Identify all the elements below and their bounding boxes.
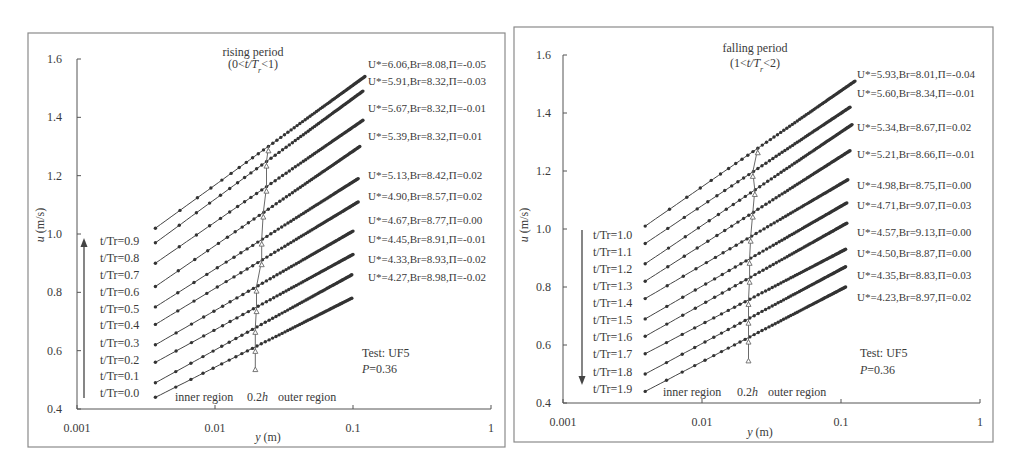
data-point xyxy=(844,248,847,251)
data-point xyxy=(708,219,711,222)
data-point xyxy=(269,298,272,301)
data-point xyxy=(228,300,231,303)
data-point xyxy=(265,235,268,238)
data-point xyxy=(844,285,847,288)
data-point xyxy=(768,245,771,248)
data-point xyxy=(232,275,235,278)
data-point xyxy=(252,307,255,310)
chart-panel-falling-period: 0.40.60.81.01.21.41.60.0010.010.11y (m)u… xyxy=(514,27,993,442)
profile-parameter-label: U*=4.90,Br=8.57,Π=0.02 xyxy=(368,190,482,202)
data-point xyxy=(273,230,276,233)
data-point xyxy=(201,372,204,375)
data-point xyxy=(284,146,287,149)
data-point xyxy=(756,167,759,170)
data-point xyxy=(848,149,851,152)
data-point xyxy=(252,217,255,220)
data-point xyxy=(712,354,715,357)
data-point xyxy=(776,219,779,222)
data-point xyxy=(738,340,741,343)
data-point xyxy=(768,200,771,203)
data-point xyxy=(217,242,220,245)
data-point xyxy=(780,151,783,154)
data-point xyxy=(264,340,267,343)
data-point xyxy=(243,176,246,179)
data-point xyxy=(665,305,668,308)
data-point xyxy=(279,293,282,296)
data-point xyxy=(271,317,274,320)
data-point xyxy=(154,396,157,399)
y-tick-label: 0.6 xyxy=(536,338,551,352)
time-ratio-label: t/Tr=1.0 xyxy=(593,228,632,242)
data-point xyxy=(154,285,157,288)
data-point xyxy=(765,141,768,144)
data-point xyxy=(154,305,157,308)
data-point xyxy=(271,142,274,145)
y-axis-unit: (m/s) xyxy=(33,208,47,236)
data-point xyxy=(272,275,275,278)
data-point xyxy=(715,234,718,237)
test-id-annotation: Test: UF5 xyxy=(362,346,410,360)
data-point xyxy=(294,139,297,142)
data-point xyxy=(779,131,782,134)
data-point xyxy=(772,263,775,266)
data-point xyxy=(785,127,788,130)
data-point xyxy=(286,131,289,134)
x-axis-title: y (m) xyxy=(254,430,281,444)
p-value: =0.36 xyxy=(369,362,397,376)
data-point xyxy=(212,329,215,332)
data-point xyxy=(739,281,742,284)
data-point xyxy=(697,226,700,229)
data-point xyxy=(782,129,785,132)
data-point xyxy=(714,256,717,259)
data-point xyxy=(267,319,270,322)
data-point xyxy=(154,241,157,244)
data-point xyxy=(241,293,244,296)
data-point xyxy=(240,334,243,337)
data-point xyxy=(753,314,756,317)
time-ratio-label: t/Tr=0.4 xyxy=(100,318,139,332)
data-point xyxy=(282,270,285,273)
data-point xyxy=(154,343,157,346)
x-tick-label: 1 xyxy=(977,415,983,429)
y-tick-label: 1.4 xyxy=(536,106,551,120)
x-tick-label: 1 xyxy=(488,421,494,435)
data-point xyxy=(269,277,272,280)
data-point xyxy=(665,341,668,344)
data-point xyxy=(202,334,205,337)
subtitle-close: <1) xyxy=(261,57,278,71)
data-point xyxy=(778,153,781,156)
data-point xyxy=(281,174,284,177)
data-point xyxy=(211,367,214,370)
data-point xyxy=(225,280,228,283)
x-axis-unit: (m) xyxy=(753,425,773,439)
data-point xyxy=(247,221,250,224)
data-point xyxy=(256,261,259,264)
data-point xyxy=(245,161,248,164)
data-point xyxy=(754,188,757,191)
data-point xyxy=(274,154,277,157)
data-point xyxy=(281,148,284,151)
data-point xyxy=(757,293,760,296)
data-point xyxy=(666,227,669,230)
data-point xyxy=(725,208,728,211)
data-point xyxy=(295,124,298,127)
data-point xyxy=(753,295,756,298)
boundary-value: 0.2 xyxy=(737,385,752,399)
data-point xyxy=(273,251,276,254)
data-point xyxy=(721,251,724,254)
data-point xyxy=(848,106,851,109)
data-point xyxy=(732,203,735,206)
time-ratio-label: t/Tr=1.2 xyxy=(593,262,632,276)
profile-parameter-label: U*=4.71,Br=9.07,Π=0.03 xyxy=(857,199,972,211)
data-point xyxy=(736,220,739,223)
profile-parameter-label: U*=4.45,Br=8.91,Π=-0.01 xyxy=(368,233,486,245)
data-point xyxy=(696,246,699,249)
data-point xyxy=(760,310,763,313)
figure-canvas: 0.40.60.81.01.21.41.60.0010.010.11y (m)u… xyxy=(0,0,1014,472)
data-point xyxy=(261,282,264,285)
data-point xyxy=(771,304,774,307)
data-point xyxy=(720,312,723,315)
data-point xyxy=(228,358,231,361)
data-point xyxy=(209,186,212,189)
data-point xyxy=(190,341,193,344)
